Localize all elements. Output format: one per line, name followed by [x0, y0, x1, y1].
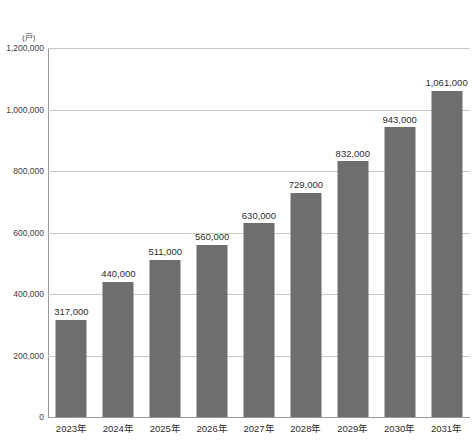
y-axis-tick-labels: 0200,000400,000600,000800,0001,000,0001,…	[0, 0, 48, 444]
bar	[150, 260, 181, 417]
x-axis-tick-label: 2024年	[103, 421, 134, 435]
bar-value-label: 440,000	[101, 269, 135, 279]
bar	[290, 193, 321, 417]
bar-slot: 630,000	[236, 48, 283, 417]
bar-slot: 943,000	[376, 48, 423, 417]
y-axis-unit-label: (戸)	[22, 31, 35, 42]
bar-value-label: 1,061,000	[425, 78, 467, 88]
bar-slot: 440,000	[95, 48, 142, 417]
x-axis-tick-label: 2028年	[290, 421, 321, 435]
bar-slot: 1,061,000	[423, 48, 470, 417]
bar-value-label: 511,000	[148, 247, 182, 257]
y-axis-tick-label: 0	[39, 412, 44, 422]
bar	[56, 320, 87, 417]
y-axis-tick-label: 600,000	[13, 228, 44, 238]
bar	[197, 245, 228, 417]
y-axis-tick-label: 200,000	[13, 351, 44, 361]
bar-value-label: 317,000	[54, 307, 88, 317]
bar-series: 317,000440,000511,000560,000630,000729,0…	[48, 48, 470, 417]
x-axis-tick-label: 2030年	[384, 421, 415, 435]
bar-value-label: 832,000	[336, 149, 370, 159]
x-axis-tick-label: 2029年	[337, 421, 368, 435]
x-axis-tick-label: 2031年	[431, 421, 462, 435]
x-axis-line	[48, 417, 470, 418]
y-axis-tick-label: 800,000	[13, 166, 44, 176]
bar-slot: 317,000	[48, 48, 95, 417]
y-axis-tick-label: 1,200,000	[6, 43, 44, 53]
bar-slot: 729,000	[282, 48, 329, 417]
bar-value-label: 560,000	[195, 232, 229, 242]
bar	[431, 91, 462, 417]
x-axis-tick-labels: 2023年2024年2025年2026年2027年2028年2029年2030年…	[48, 421, 470, 441]
x-axis-tick-label: 2027年	[243, 421, 274, 435]
bar-slot: 560,000	[189, 48, 236, 417]
y-axis-tick-label: 1,000,000	[6, 105, 44, 115]
bar	[103, 282, 134, 417]
bar-value-label: 630,000	[242, 211, 276, 221]
bar-value-label: 729,000	[289, 180, 323, 190]
y-axis-tick-label: 400,000	[13, 289, 44, 299]
bar-slot: 511,000	[142, 48, 189, 417]
bar	[243, 223, 274, 417]
bar-value-label: 943,000	[382, 115, 416, 125]
x-axis-tick-label: 2025年	[150, 421, 181, 435]
x-axis-tick-label: 2023年	[56, 421, 87, 435]
bar	[337, 161, 368, 417]
bar	[384, 127, 415, 417]
x-axis-tick-label: 2026年	[197, 421, 228, 435]
bar-slot: 832,000	[329, 48, 376, 417]
bar-chart: (戸) 0200,000400,000600,000800,0001,000,0…	[0, 0, 476, 444]
